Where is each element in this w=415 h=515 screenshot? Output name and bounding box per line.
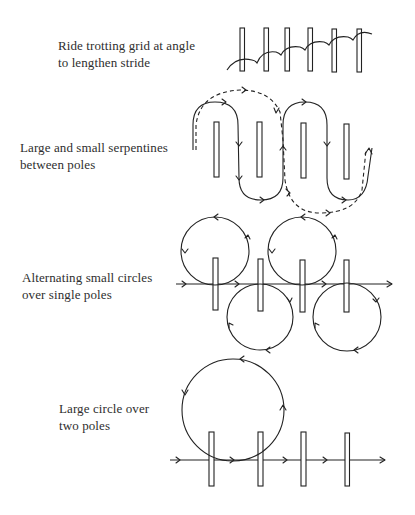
pole-icon bbox=[213, 258, 218, 310]
pole-icon bbox=[240, 28, 245, 71]
arrow-icon bbox=[280, 405, 286, 410]
pole-icon bbox=[258, 432, 263, 486]
pole-icon bbox=[308, 28, 313, 71]
arrow-icon bbox=[242, 87, 246, 93]
large-circle-diagram bbox=[170, 356, 385, 486]
pole-icon bbox=[214, 122, 219, 177]
arrow-icon bbox=[182, 249, 188, 253]
serpentine-diagram bbox=[193, 87, 372, 216]
pole-icon bbox=[301, 123, 306, 178]
alternating-circles-diagram bbox=[176, 214, 392, 353]
pole-icon bbox=[345, 433, 350, 486]
arrow-icon bbox=[240, 356, 244, 362]
stride-arc-path bbox=[227, 32, 372, 70]
pole-icon bbox=[264, 28, 269, 71]
arrow-icon bbox=[274, 108, 279, 113]
arrow-icon bbox=[269, 249, 275, 253]
pole-icon bbox=[344, 260, 349, 312]
arrow-icon bbox=[266, 347, 270, 353]
arrow-icon bbox=[236, 142, 242, 146]
circle-path bbox=[182, 359, 284, 461]
trotting-grid-diagram bbox=[227, 28, 372, 72]
pole-icon bbox=[209, 432, 214, 486]
circle-poles bbox=[213, 258, 349, 312]
pole-icon bbox=[301, 432, 306, 486]
pole-icon bbox=[300, 260, 305, 312]
grid-poles bbox=[240, 28, 362, 72]
exercise-diagrams bbox=[0, 0, 415, 515]
large-circle-poles bbox=[209, 432, 350, 486]
pole-icon bbox=[332, 29, 337, 72]
pole-icon bbox=[357, 29, 362, 72]
pole-icon bbox=[344, 124, 349, 179]
arrow-icon bbox=[315, 323, 319, 328]
arrow-icon bbox=[229, 323, 233, 328]
large-serpentine-path bbox=[196, 90, 366, 213]
pole-icon bbox=[257, 122, 262, 177]
arrow-icon bbox=[326, 210, 330, 216]
pole-icon bbox=[258, 259, 263, 311]
arrow-icon bbox=[365, 148, 372, 154]
